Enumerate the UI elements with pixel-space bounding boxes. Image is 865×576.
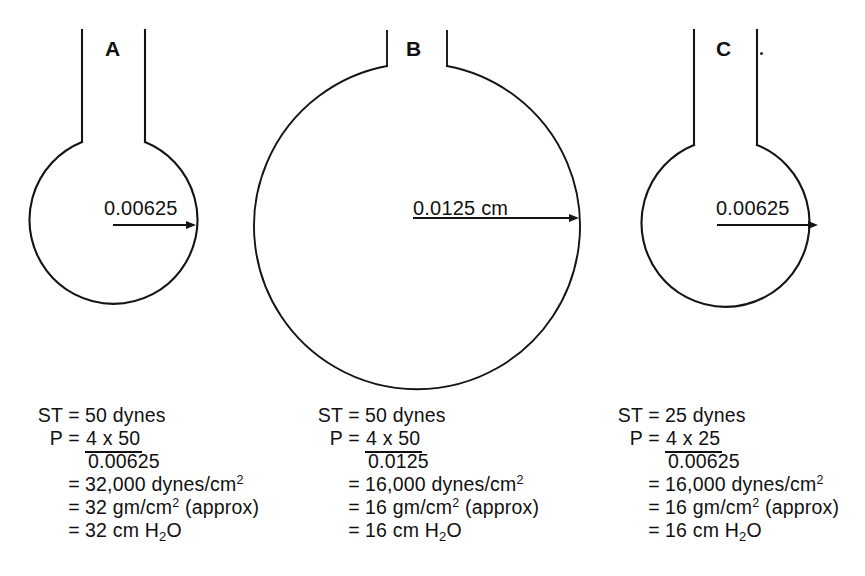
calc-c-denominator-row: 0.00625 xyxy=(605,450,839,473)
calc-c-cmh2o-row: =16 cm H2O xyxy=(605,519,839,542)
calc-a-eq-1: = xyxy=(63,404,85,427)
calc-a-result-dynes-text: 32,000 dynes/cm xyxy=(85,473,237,495)
calc-b-eq-3: = xyxy=(343,473,365,496)
balloon-a-sphere xyxy=(30,142,198,304)
calc-c-result-dynes: 16,000 dynes/cm2 xyxy=(665,473,824,496)
calc-a-denominator: 0.00625 xyxy=(85,450,160,473)
calc-a-p-row: P=4 x 50 xyxy=(25,427,259,450)
calc-c-eq-3: = xyxy=(643,473,665,496)
calc-a-cmh2o-post: O xyxy=(166,519,181,541)
calc-b-st-row: ST=50 dynes xyxy=(305,404,539,427)
calc-a-gm-note: (approx) xyxy=(185,496,259,518)
calc-c-st-value: 25 dynes xyxy=(665,404,746,427)
calc-b-gm-row: =16 gm/cm2 (approx) xyxy=(305,496,539,519)
calc-a-st-value: 50 dynes xyxy=(85,404,166,427)
calc-b-eq-2: = xyxy=(343,427,365,450)
calc-b-st-value: 50 dynes xyxy=(365,404,446,427)
calc-b-cmh2o-pre: 16 cm H xyxy=(365,519,439,541)
calc-c-eq-4: = xyxy=(643,496,665,519)
panel-letter-c: C xyxy=(716,38,731,59)
calc-a-eq-4: = xyxy=(63,496,85,519)
calc-c-gm-row: =16 gm/cm2 (approx) xyxy=(605,496,839,519)
calc-b-dynes-row: =16,000 dynes/cm2 xyxy=(305,473,539,496)
calc-b-dynes-exponent: 2 xyxy=(517,473,524,487)
calc-c-gm-exponent: 2 xyxy=(752,496,759,510)
balloon-b-sphere xyxy=(254,66,580,389)
calc-b-result-dynes-text: 16,000 dynes/cm xyxy=(365,473,517,495)
calc-c-gm-note: (approx) xyxy=(765,496,839,518)
calc-a-result-gm-text: 32 gm/cm xyxy=(85,496,172,518)
calc-a-result-dynes: 32,000 dynes/cm2 xyxy=(85,473,244,496)
print-speck xyxy=(760,52,763,55)
calculation-block-c: ST=25 dynes P=4 x 25 0.00625 =16,000 dyn… xyxy=(605,404,839,542)
calc-b-cmh2o-post: O xyxy=(446,519,461,541)
calc-b-eq-1: = xyxy=(343,404,365,427)
calc-a-st-row: ST=50 dynes xyxy=(25,404,259,427)
calc-c-dynes-exponent: 2 xyxy=(817,473,824,487)
calc-c-cmh2o-pre: 16 cm H xyxy=(665,519,739,541)
panel-letter-b: B xyxy=(406,38,421,59)
balloon-b-radius-label: 0.0125 cm xyxy=(413,198,508,218)
calc-a-st-label: ST xyxy=(25,404,63,427)
calc-c-st-label: ST xyxy=(605,404,643,427)
calc-a-eq-3: = xyxy=(63,473,85,496)
calc-a-dynes-row: =32,000 dynes/cm2 xyxy=(25,473,259,496)
calc-a-gm-row: =32 gm/cm2 (approx) xyxy=(25,496,259,519)
calc-b-gm-note: (approx) xyxy=(465,496,539,518)
calc-a-cmh2o-row: =32 cm H2O xyxy=(25,519,259,542)
calc-c-result-gm-text: 16 gm/cm xyxy=(665,496,752,518)
calc-b-denominator-row: 0.0125 xyxy=(305,450,539,473)
balloon-c-radius-label: 0.00625 xyxy=(716,198,790,218)
calc-b-p-row: P=4 x 50 xyxy=(305,427,539,450)
calc-a-eq-5: = xyxy=(63,519,85,542)
balloon-a-graphic xyxy=(30,30,198,304)
calc-c-cmh2o-post: O xyxy=(746,519,761,541)
calc-a-cmh2o-subscript: 2 xyxy=(159,529,166,544)
calc-c-result-cmh2o: 16 cm H2O xyxy=(665,519,762,542)
calc-b-eq-4: = xyxy=(343,496,365,519)
balloon-a-radius-label: 0.00625 xyxy=(104,198,178,218)
calculation-block-a: ST=50 dynes P=4 x 50 0.00625 =32,000 dyn… xyxy=(25,404,259,542)
calc-a-result-gm: 32 gm/cm2 (approx) xyxy=(85,496,259,519)
calc-a-gm-exponent: 2 xyxy=(172,496,179,510)
calc-c-cmh2o-subscript: 2 xyxy=(739,529,746,544)
calc-c-p-row: P=4 x 25 xyxy=(605,427,839,450)
calc-c-result-gm: 16 gm/cm2 (approx) xyxy=(665,496,839,519)
calc-a-dynes-exponent: 2 xyxy=(237,473,244,487)
calc-c-eq-1: = xyxy=(643,404,665,427)
calc-b-cmh2o-subscript: 2 xyxy=(439,529,446,544)
calc-b-result-gm: 16 gm/cm2 (approx) xyxy=(365,496,539,519)
calculation-block-b: ST=50 dynes P=4 x 50 0.0125 =16,000 dyne… xyxy=(305,404,539,542)
calc-b-result-dynes: 16,000 dynes/cm2 xyxy=(365,473,524,496)
calc-c-st-row: ST=25 dynes xyxy=(605,404,839,427)
panel-letter-a: A xyxy=(105,38,120,59)
balloon-a-radius-arrowhead xyxy=(186,221,196,229)
figure-canvas: A B C 0.00625 0.0125 cm 0.00625 ST=50 dy… xyxy=(0,0,865,576)
calc-b-st-label: ST xyxy=(305,404,343,427)
calc-c-denominator: 0.00625 xyxy=(665,450,740,473)
calc-b-result-gm-text: 16 gm/cm xyxy=(365,496,452,518)
balloon-c-radius-arrowhead xyxy=(808,221,818,229)
calc-a-cmh2o-pre: 32 cm H xyxy=(85,519,159,541)
calc-b-cmh2o-row: =16 cm H2O xyxy=(305,519,539,542)
balloon-b-radius-arrowhead xyxy=(569,214,579,222)
calc-c-eq-2: = xyxy=(643,427,665,450)
calc-a-result-cmh2o: 32 cm H2O xyxy=(85,519,182,542)
calc-b-gm-exponent: 2 xyxy=(452,496,459,510)
calc-a-denominator-row: 0.00625 xyxy=(25,450,259,473)
calc-c-eq-5: = xyxy=(643,519,665,542)
calc-b-eq-5: = xyxy=(343,519,365,542)
balloon-c-graphic xyxy=(642,30,819,307)
calc-a-p-label: P xyxy=(25,427,63,450)
calc-b-denominator: 0.0125 xyxy=(365,450,429,473)
calc-c-result-dynes-text: 16,000 dynes/cm xyxy=(665,473,817,495)
calc-c-p-label: P xyxy=(605,427,643,450)
calc-c-dynes-row: =16,000 dynes/cm2 xyxy=(605,473,839,496)
calc-b-result-cmh2o: 16 cm H2O xyxy=(365,519,462,542)
calc-b-p-label: P xyxy=(305,427,343,450)
calc-a-eq-2: = xyxy=(63,427,85,450)
